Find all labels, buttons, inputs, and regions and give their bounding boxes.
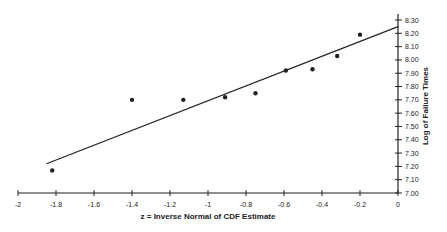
y-tick-label: 7.30 — [405, 150, 419, 157]
y-tick-label: 8.10 — [405, 43, 419, 50]
y-tick-label: 7.50 — [405, 123, 419, 130]
x-tick-label: -1.2 — [164, 201, 176, 208]
x-tick-label: -0.6 — [278, 201, 290, 208]
y-tick-label: 7.70 — [405, 96, 419, 103]
data-point — [358, 32, 362, 36]
regression-line — [47, 27, 399, 164]
x-axis-label: z = Inverse Normal of CDF Estimate — [141, 212, 276, 221]
data-point — [284, 68, 288, 72]
y-tick-label: 7.00 — [405, 190, 419, 197]
scatter-chart: -2-1.8-1.6-1.4-1.2-1-0.8-0.6-0.4-0.207.0… — [0, 0, 447, 232]
data-point — [181, 98, 185, 102]
data-point — [310, 67, 314, 71]
axes: -2-1.8-1.6-1.4-1.2-1-0.8-0.6-0.4-0.207.0… — [15, 14, 419, 208]
x-tick-label: -0.2 — [354, 201, 366, 208]
y-tick-label: 7.80 — [405, 83, 419, 90]
fit-line — [47, 27, 399, 164]
y-tick-label: 7.10 — [405, 176, 419, 183]
x-tick-label: -1.4 — [126, 201, 138, 208]
y-axis-label: Log of Failure Times — [421, 66, 430, 145]
y-tick-label: 7.60 — [405, 110, 419, 117]
x-tick-label: -1.6 — [88, 201, 100, 208]
chart-canvas: -2-1.8-1.6-1.4-1.2-1-0.8-0.6-0.4-0.207.0… — [0, 0, 447, 232]
data-points — [50, 32, 362, 172]
data-point — [223, 95, 227, 99]
y-tick-label: 7.40 — [405, 136, 419, 143]
y-tick-label: 8.20 — [405, 30, 419, 37]
x-tick-label: -0.8 — [240, 201, 252, 208]
x-tick-label: -1.8 — [50, 201, 62, 208]
data-point — [50, 168, 54, 172]
x-tick-label: 0 — [396, 201, 400, 208]
x-tick-label: -2 — [15, 201, 21, 208]
y-tick-label: 8.00 — [405, 56, 419, 63]
y-tick-label: 7.90 — [405, 70, 419, 77]
data-point — [130, 98, 134, 102]
data-point — [335, 54, 339, 58]
data-point — [253, 91, 257, 95]
y-tick-label: 7.20 — [405, 163, 419, 170]
y-tick-label: 8.30 — [405, 17, 419, 24]
x-tick-label: -0.4 — [316, 201, 328, 208]
x-tick-label: -1 — [205, 201, 211, 208]
